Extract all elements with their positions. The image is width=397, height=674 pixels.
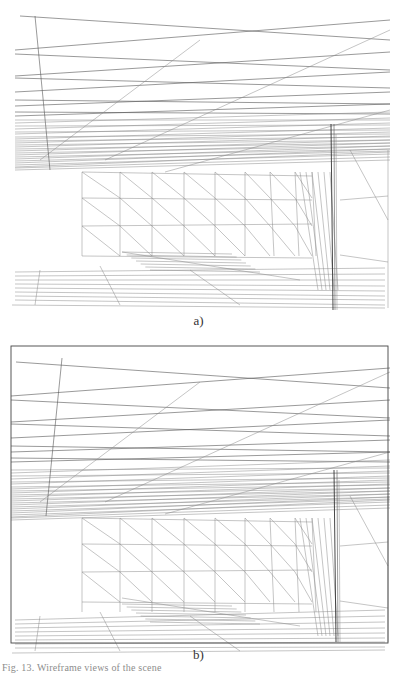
panel-label-a: a) (0, 313, 397, 329)
figure-panel-b (0, 340, 397, 650)
wireframe-render-b (0, 340, 397, 650)
wireframe-render-a (0, 0, 397, 310)
figure-panel-a (0, 0, 397, 310)
panel-label-b: b) (0, 647, 397, 663)
figure-caption: Fig. 13. Wireframe views of the scene (2, 662, 162, 673)
